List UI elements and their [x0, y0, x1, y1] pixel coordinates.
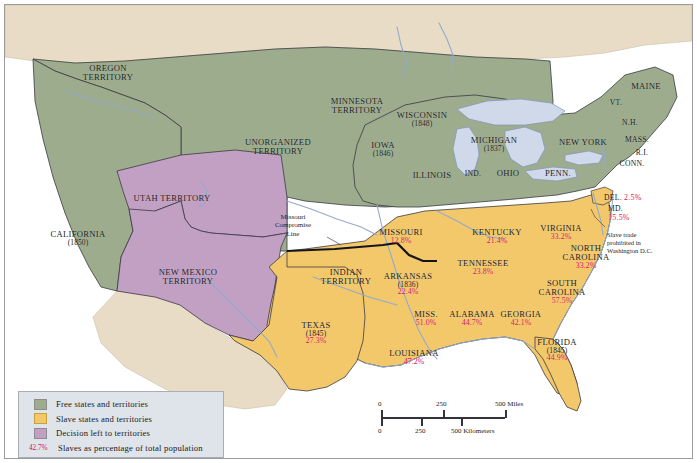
label-oregon-territory: OREGON TERRITORY — [83, 64, 133, 82]
legend-label-free: Free states and territories — [56, 399, 148, 409]
label-maryland: MD. 15.5% — [608, 204, 630, 223]
label-ohio: OHIO — [497, 169, 520, 178]
label-texas: TEXAS(1845)27.3% — [301, 321, 330, 345]
label-california: CALIFORNIA(1850) — [50, 230, 105, 246]
label-wisconsin: WISCONSIN(1848) — [397, 111, 447, 127]
map-frame: OREGON TERRITORY MINNESOTA TERRITORY UNO… — [4, 4, 693, 459]
label-delaware: DEL. 2.5% — [604, 194, 642, 202]
annotation-washington-dc-note: Slave trade prohibited in Washington D.C… — [607, 231, 669, 254]
label-pennsylvania: PENN. — [545, 169, 571, 178]
scale-tick-miles-250 — [443, 410, 445, 418]
label-south-carolina: SOUTH CAROLINA57.5% — [539, 279, 586, 304]
scale-tick-miles-500 — [505, 410, 507, 418]
legend-item-slave: Slave states and territories — [26, 412, 216, 427]
legend-label-percent: Slaves as percentage of total population — [58, 443, 203, 453]
scale-label-miles-250: 250 — [436, 400, 447, 408]
label-missouri: MISSOURI12.8% — [379, 228, 422, 245]
legend-item-decision: Decision left to territories — [26, 426, 216, 441]
label-virginia: VIRGINIA33.2% — [540, 224, 582, 241]
label-unorganized-territory: UNORGANIZED TERRITORY — [245, 138, 311, 156]
legend-label-slave: Slave states and territories — [56, 414, 152, 424]
label-louisiana: LOUISIANA47.2% — [389, 349, 438, 366]
label-florida: FLORIDA(1845)44.9% — [537, 338, 576, 362]
label-north-carolina: NORTH CAROLINA33.2% — [563, 244, 610, 269]
map-legend: Free states and territories Slave states… — [18, 391, 224, 458]
scale-label-km-250: 250 — [415, 427, 426, 435]
label-new-mexico-territory: NEW MEXICO TERRITORY — [159, 268, 217, 286]
label-utah-territory: UTAH TERRITORY — [134, 194, 211, 203]
label-arkansas: ARKANSAS(1836)22.4% — [384, 272, 433, 296]
label-georgia: GEORGIA42.1% — [501, 310, 542, 327]
legend-label-decision: Decision left to territories — [56, 428, 150, 438]
legend-percent-key: 42.7% — [29, 444, 51, 452]
label-connecticut: CONN. — [620, 160, 645, 168]
scale-label-km-500: 500 Kilometers — [451, 427, 494, 435]
scale-tick-km-250 — [421, 418, 423, 426]
legend-swatch-slave-icon — [34, 413, 47, 424]
label-alabama: ALABAMA44.7% — [449, 310, 495, 327]
label-mississippi: MISS.51.0% — [414, 310, 438, 327]
label-vermont: VT. — [610, 99, 622, 107]
map-scale-bar: 0 250 500 Miles 0 250 500 Kilometers — [373, 397, 533, 443]
label-massachusetts: MASS. — [625, 136, 649, 144]
label-new-york: NEW YORK — [559, 138, 607, 147]
label-new-hampshire: N.H. — [622, 119, 638, 127]
scale-tick-km-500 — [461, 418, 463, 426]
annotation-missouri-compromise-line: Missouri Compromise Line — [263, 213, 323, 238]
label-tennessee: TENNESSEE23.8% — [458, 259, 509, 276]
scale-label-km-0: 0 — [378, 427, 382, 435]
label-iowa: IOWA(1846) — [371, 141, 395, 157]
map-screenshot: OREGON TERRITORY MINNESOTA TERRITORY UNO… — [0, 0, 697, 463]
scale-label-miles-0: 0 — [378, 400, 382, 408]
label-minnesota-territory: MINNESOTA TERRITORY — [331, 97, 384, 115]
label-illinois: ILLINOIS — [413, 171, 452, 180]
legend-swatch-free-icon — [34, 399, 47, 410]
scale-label-miles-500: 500 Miles — [495, 400, 523, 408]
label-michigan: MICHIGAN(1837) — [471, 136, 517, 152]
scale-tick-km-0 — [381, 418, 383, 426]
label-indiana: IND. — [465, 170, 482, 178]
label-maine: MAINE — [631, 82, 661, 91]
label-rhode-island: R.I. — [636, 149, 649, 157]
label-kentucky: KENTUCKY21.4% — [472, 228, 522, 245]
legend-item-percent: 42.7% Slaves as percentage of total popu… — [26, 441, 216, 456]
label-indian-territory: INDIAN TERRITORY — [321, 268, 371, 286]
legend-item-free: Free states and territories — [26, 397, 216, 412]
scale-tick-miles-0 — [381, 410, 383, 418]
legend-swatch-decision-icon — [34, 428, 47, 439]
